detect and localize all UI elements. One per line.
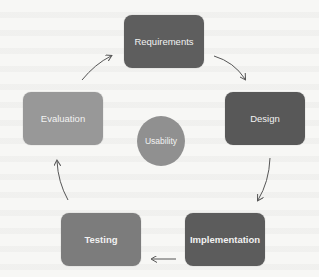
node-evaluation-label: Evaluation [41, 113, 85, 124]
center-usability-label: Usability [145, 136, 177, 146]
arrow-requirements-to-design [214, 56, 245, 79]
node-design-label: Design [250, 113, 280, 124]
node-implementation-label: Implementation [190, 234, 260, 245]
usability-cycle-diagram: Requirements Design Implementation Testi… [0, 0, 319, 277]
center-usability-circle: Usability [137, 116, 185, 166]
node-implementation: Implementation [185, 213, 265, 266]
node-testing: Testing [61, 213, 141, 266]
node-requirements: Requirements [124, 15, 204, 68]
node-testing-label: Testing [84, 234, 117, 245]
arrow-evaluation-to-requirements [82, 56, 111, 80]
node-design: Design [225, 92, 305, 145]
node-requirements-label: Requirements [134, 36, 193, 47]
node-evaluation: Evaluation [23, 92, 103, 145]
arrow-design-to-implementation [258, 158, 270, 200]
arrow-testing-to-evaluation [57, 161, 68, 200]
